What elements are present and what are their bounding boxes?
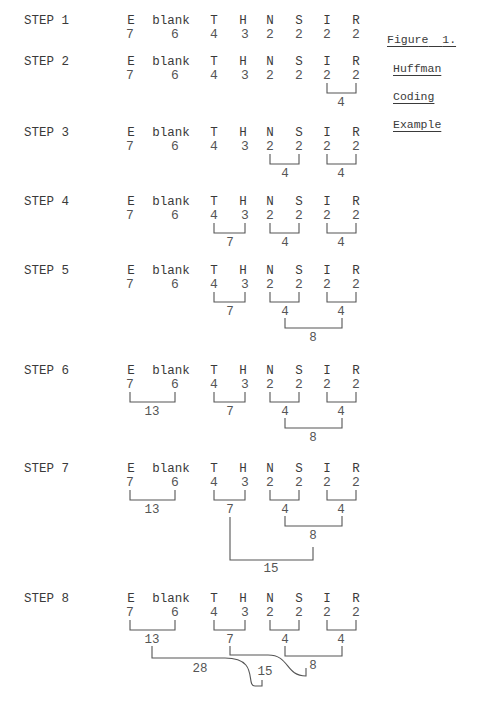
bracket-line — [327, 620, 356, 630]
bracket-line — [214, 620, 245, 630]
bracket-line — [270, 154, 299, 164]
bracket-line — [270, 223, 299, 233]
bracket-line — [270, 292, 299, 302]
bracket-line — [327, 490, 356, 500]
bracket-line — [130, 620, 175, 630]
bracket-line — [214, 223, 245, 233]
bracket-line — [327, 392, 356, 402]
bracket-line — [327, 292, 356, 302]
bracket-line — [270, 490, 299, 500]
bracket-line — [285, 418, 342, 428]
bracket-line — [270, 620, 299, 630]
bracket-curve — [152, 646, 262, 686]
bracket-line — [270, 392, 299, 402]
bracket-line — [130, 392, 175, 402]
bracket-line — [327, 83, 356, 93]
bracket-line — [285, 646, 342, 656]
bracket-line — [285, 516, 342, 526]
bracket-line — [230, 517, 313, 560]
bracket-line — [327, 154, 356, 164]
bracket-line — [214, 292, 245, 302]
bracket-line — [130, 490, 175, 500]
bracket-line — [285, 318, 342, 328]
bracket-line — [214, 392, 245, 402]
bracket-line — [214, 490, 245, 500]
merge-brackets — [0, 0, 481, 710]
bracket-line — [327, 223, 356, 233]
